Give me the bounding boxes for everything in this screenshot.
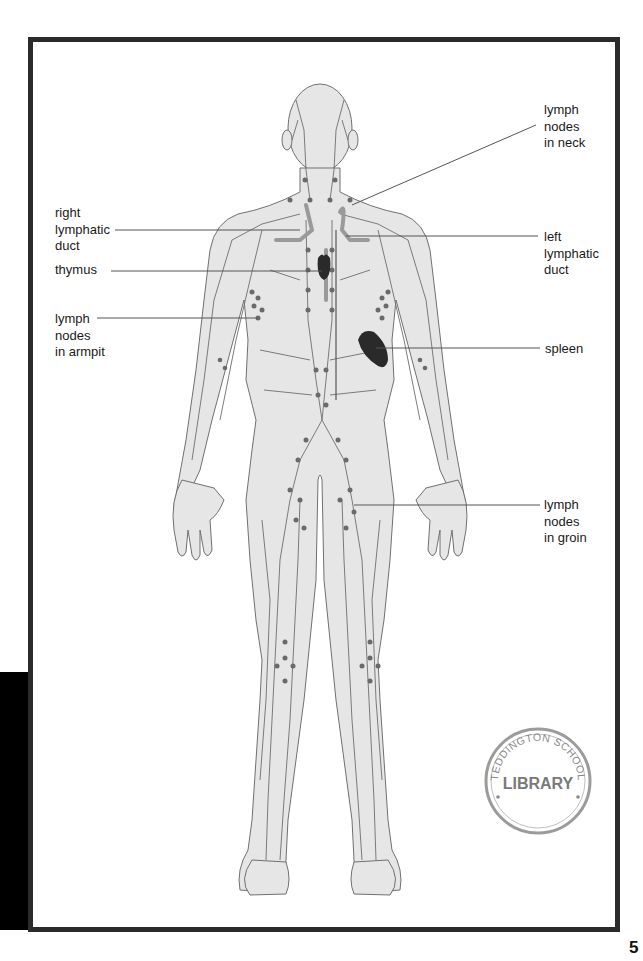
svg-text:TEDDINGTON SCHOOL: TEDDINGTON SCHOOL bbox=[488, 731, 588, 781]
label-lymph-nodes-armpit: lymph nodes in armpit bbox=[55, 311, 105, 361]
label-right-lymphatic-duct: right lymphatic duct bbox=[55, 205, 110, 255]
body-silhouette bbox=[174, 84, 466, 892]
hands bbox=[173, 480, 467, 560]
label-lymph-nodes-neck: lymph nodes in neck bbox=[544, 102, 585, 152]
stamp-top-text: TEDDINGTON SCHOOL bbox=[488, 731, 588, 781]
label-left-lymphatic-duct: left lymphatic duct bbox=[544, 229, 599, 279]
label-thymus: thymus bbox=[55, 262, 97, 279]
leader-line-neck bbox=[352, 125, 536, 205]
stamp-dot-right bbox=[576, 795, 580, 799]
page-number: 5 bbox=[629, 938, 638, 958]
label-lymph-nodes-groin: lymph nodes in groin bbox=[544, 497, 587, 547]
stamp-center-text: LIBRARY bbox=[503, 775, 574, 792]
library-stamp: TEDDINGTON SCHOOL LIBRARY bbox=[482, 725, 594, 837]
feet bbox=[244, 860, 395, 895]
label-spleen: spleen bbox=[545, 341, 583, 358]
stamp-dot-left bbox=[496, 795, 500, 799]
